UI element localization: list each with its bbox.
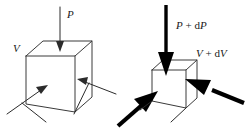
thermodynamics-cube-figure: P V (0, 0, 245, 129)
compressed-state-panel: P + dP V + dV (118, 5, 244, 126)
pressure-label-compressed-operator: + (183, 19, 195, 31)
volume-label-compressed-operator: + (203, 47, 215, 59)
pressure-arrow-right-compressed-shaft (212, 90, 244, 103)
cube-compressed (152, 60, 197, 108)
initial-state-panel: P V (7, 7, 116, 122)
volume-label-initial: V (13, 42, 21, 54)
volume-label-compressed-variable: V (220, 47, 228, 59)
pressure-label-compressed-variable: P (199, 19, 207, 31)
pressure-arrow-left-compressed-shaft (118, 105, 142, 126)
cube-compressed-lower-corner-line (171, 108, 186, 122)
cube-initial (26, 41, 92, 112)
volume-label-compressed: V + dV (196, 47, 228, 59)
figure-canvas: P V (0, 0, 245, 129)
pressure-arrow-left-compressed (118, 91, 158, 126)
pressure-label-compressed: P + dP (175, 19, 207, 31)
cube-initial-front-face (26, 56, 75, 112)
pressure-label-initial: P (66, 8, 74, 20)
